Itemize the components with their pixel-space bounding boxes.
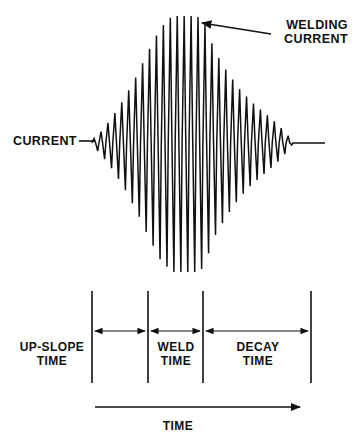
time-axis-label: TIME [0, 420, 356, 434]
welding-current-diagram: WELDING CURRENT CURRENT UP-SLOPE TIME WE… [0, 0, 356, 443]
welding-current-label: WELDING CURRENT [284, 18, 348, 47]
phase-tick-marks [92, 291, 311, 383]
current-axis-label: CURRENT [13, 134, 77, 148]
diagram-svg [0, 0, 356, 443]
current-waveform [92, 16, 325, 272]
waveform-trace [92, 16, 325, 272]
weld-time-label: WELD TIME [150, 341, 202, 369]
up-slope-time-label: UP-SLOPE TIME [14, 341, 90, 369]
decay-time-label: DECAY TIME [206, 341, 310, 369]
welding-current-leader [202, 23, 271, 34]
